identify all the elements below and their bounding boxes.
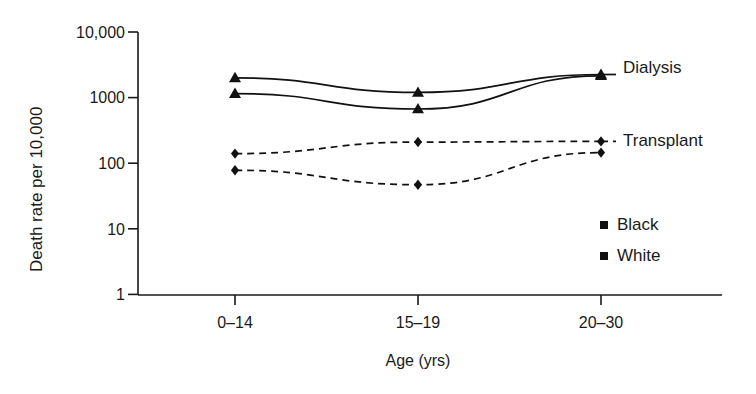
series-annotation-transplant: Transplant [623, 131, 703, 151]
data-point-marker-diamond [597, 147, 605, 157]
series-annotation-dialysis: Dialysis [623, 58, 682, 78]
data-point-marker-diamond [414, 137, 422, 147]
x-axis-ticks [235, 295, 601, 305]
legend-item-white: White [600, 246, 660, 266]
data-series-layer [229, 68, 616, 189]
data-point-marker-diamond [231, 148, 239, 158]
y-axis-title: Death rate per 10,000 [27, 107, 46, 272]
x-category-label-0-14: 0–14 [217, 314, 253, 332]
y-axis-ticks [128, 32, 138, 294]
legend-label-white: White [617, 246, 660, 266]
y-tick-label-10: 10 [107, 221, 125, 239]
y-tick-label-100: 100 [98, 155, 125, 173]
legend-square-icon-white [600, 252, 608, 260]
data-point-marker-triangle [229, 88, 241, 98]
x-category-label-15-19: 15–19 [396, 314, 441, 332]
data-point-marker-triangle [229, 72, 241, 82]
chart-figure: Death rate per 10,000 10,000 1000 100 10… [0, 0, 756, 394]
data-point-marker-diamond [231, 165, 239, 175]
data-point-marker-diamond [414, 180, 422, 190]
y-tick-label-1: 1 [116, 286, 125, 304]
legend-label-black: Black [617, 215, 659, 235]
x-category-label-20-30: 20–30 [579, 314, 624, 332]
y-tick-label-1000: 1000 [89, 89, 125, 107]
y-tick-label-10000: 10,000 [76, 24, 125, 42]
legend-square-icon-black [600, 221, 608, 229]
legend-item-black: Black [600, 215, 659, 235]
x-axis-title: Age (yrs) [386, 352, 451, 370]
